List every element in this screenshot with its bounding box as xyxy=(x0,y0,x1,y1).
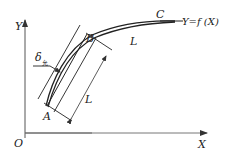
point-b-label: B xyxy=(85,32,94,45)
point-c-label: C xyxy=(156,8,165,21)
tolerance-leader-arrow xyxy=(50,66,60,72)
curve-inner xyxy=(48,22,175,107)
curve-outer xyxy=(46,21,175,106)
tolerance-subscript: 允 xyxy=(42,59,48,67)
point-a-label: A xyxy=(42,110,51,123)
chord-ab xyxy=(47,34,87,106)
tolerance-symbol: δ xyxy=(35,51,42,64)
dimension-label-l: L xyxy=(84,93,92,106)
curve-approximation-diagram: Y X O L δ 允 A B C L Y=f (X) xyxy=(0,0,230,154)
dimension-line-l xyxy=(71,56,106,119)
segment-bc-label: L xyxy=(129,35,137,48)
y-axis-label: Y xyxy=(15,20,24,33)
x-axis-label: X xyxy=(197,138,207,151)
origin-label: O xyxy=(14,137,23,150)
function-label: Y=f (X) xyxy=(182,16,219,27)
